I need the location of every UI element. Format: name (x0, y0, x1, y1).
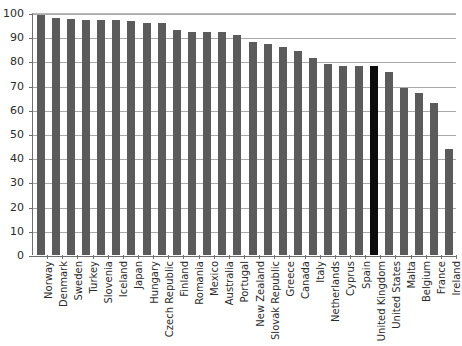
x-tick-label: United Kingdom (377, 181, 387, 261)
y-tick-label: 100 (0, 8, 24, 19)
x-tick-label: Norway (44, 223, 54, 261)
y-tick-label: 10 (0, 225, 24, 236)
x-tick-label: Greece (286, 225, 296, 261)
x-tick-label-text: Belgium (422, 261, 432, 302)
x-tick-label: Denmark (59, 215, 69, 261)
x-tick-label: Hungary (150, 218, 160, 261)
x-tick-label: Cyprus (346, 226, 356, 261)
x-tick-label: Romania (195, 217, 205, 261)
x-tick-label-text: New Zealand (256, 261, 266, 327)
x-tick-label-text: Malta (407, 261, 417, 289)
bar (82, 20, 90, 255)
x-tick-label-text: Turkey (89, 261, 99, 294)
x-tick-label-text: Mexico (210, 261, 220, 296)
y-tick-label: 80 (0, 56, 24, 67)
x-tick-label-text: Finland (180, 261, 190, 297)
x-tick-label: Australia (225, 217, 235, 261)
bar (37, 15, 45, 255)
y-tick-label: 20 (0, 201, 24, 212)
x-tick-label: Slovenia (104, 218, 114, 261)
x-tick-label: Iceland (119, 225, 129, 261)
x-tick-label: Spain (362, 233, 372, 261)
x-tick-label: Portugal (240, 220, 250, 261)
x-tick-label: Ireland (452, 226, 462, 261)
y-tick-label: 90 (0, 32, 24, 43)
x-tick-label: Mexico (210, 226, 220, 261)
y-tick-label: 50 (0, 129, 24, 140)
x-tick-label-text: Slovak Republic (271, 261, 281, 340)
x-tick-label: Belgium (422, 220, 432, 261)
x-tick-label-text: Denmark (59, 261, 69, 307)
x-tick-label: Sweden (74, 221, 84, 261)
y-tick-label: 60 (0, 104, 24, 115)
x-tick-label-text: Canada (301, 261, 311, 299)
x-tick-label: Malta (407, 233, 417, 261)
x-tick-label-text: Portugal (240, 261, 250, 302)
x-tick-label-text: United States (392, 261, 402, 329)
x-tick-label-text: Czech Republic (165, 261, 175, 337)
x-tick-label-text: Romania (195, 261, 205, 305)
x-tick-label-text: United Kingdom (377, 261, 387, 341)
bar (127, 21, 135, 255)
y-tick-label: 70 (0, 80, 24, 91)
x-tick-label: Netherlands (331, 200, 341, 261)
x-tick-label: Czech Republic (165, 185, 175, 261)
y-tick-label: 40 (0, 153, 24, 164)
x-tick-label-text: Italy (316, 261, 326, 283)
x-tick-label-text: Japan (134, 261, 144, 289)
x-tick-label: France (437, 228, 447, 261)
x-tick-label: Canada (301, 223, 311, 261)
x-tick-label-text: Norway (44, 261, 54, 299)
x-tick-label-text: Netherlands (331, 261, 341, 322)
x-tick-label-text: Ireland (452, 261, 462, 296)
y-tick-label: 30 (0, 177, 24, 188)
x-tick-label-text: Slovenia (104, 261, 114, 304)
x-tick-label-text: Hungary (150, 261, 160, 304)
x-tick-label-text: Sweden (74, 261, 84, 301)
x-tick-label: Slovak Republic (271, 182, 281, 261)
x-tick-label-text: Cyprus (346, 261, 356, 296)
x-tick-label: New Zealand (256, 195, 266, 261)
x-tick-label: Japan (134, 233, 144, 261)
y-tick-label: 0 (0, 250, 24, 261)
x-tick-label-text: Greece (286, 261, 296, 297)
x-tick-label: Turkey (89, 228, 99, 261)
x-tick-label: Finland (180, 225, 190, 261)
x-tick-label: United States (392, 193, 402, 261)
x-axis: NorwayDenmarkSwedenTurkeySloveniaIceland… (32, 255, 456, 346)
x-tick-label: Italy (316, 239, 326, 261)
x-tick-label-text: Iceland (119, 261, 129, 297)
x-tick-label-text: Australia (225, 261, 235, 305)
x-tick-label-text: France (437, 261, 447, 294)
x-tick-label-text: Spain (362, 261, 372, 289)
